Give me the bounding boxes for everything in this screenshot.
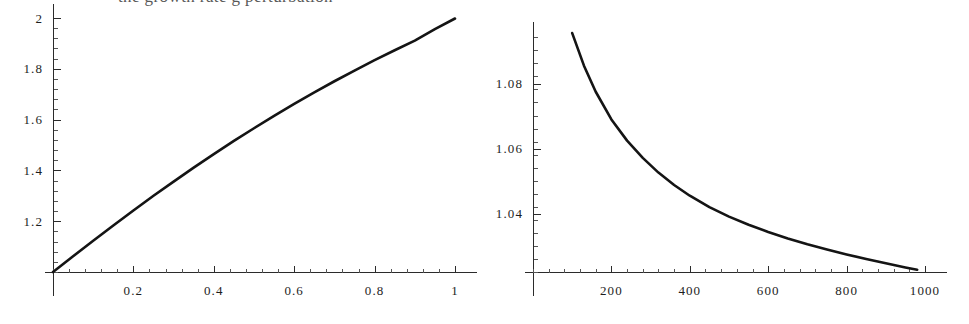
left-plot-canvas: 0.20.40.60.811.21.41.61.82 <box>0 0 480 324</box>
y-tick-label: 1.8 <box>23 61 43 76</box>
right-plot-figure: 20040060080010001.041.061.08 <box>480 0 969 324</box>
y-ticks-group: 1.21.41.61.82 <box>23 11 60 273</box>
figure-page: the growth rate g perturbation 0.20.40.6… <box>0 0 969 324</box>
x-tick-label: 400 <box>678 283 701 298</box>
y-tick-label: 1.06 <box>496 141 523 156</box>
x-tick-label: 0.4 <box>204 283 224 298</box>
y-tick-label: 2 <box>35 11 43 26</box>
x-tick-label: 0.8 <box>365 283 385 298</box>
right-plot-canvas: 20040060080010001.041.061.08 <box>480 0 969 324</box>
y-tick-label: 1.6 <box>23 112 43 127</box>
left-plot-figure: 0.20.40.60.811.21.41.61.82 <box>0 0 480 324</box>
y-tick-label: 1.08 <box>496 76 523 91</box>
x-tick-label: 200 <box>600 283 623 298</box>
y-tick-label: 1.2 <box>23 214 43 229</box>
x-tick-label: 0.6 <box>284 283 304 298</box>
y-tick-label: 1.04 <box>496 206 523 221</box>
x-tick-label: 1000 <box>910 283 940 298</box>
y-tick-label: 1.4 <box>23 163 43 178</box>
axes-group <box>525 22 947 296</box>
x-tick-label: 0.2 <box>124 283 144 298</box>
x-tick-label: 1 <box>451 283 459 298</box>
x-ticks-group: 0.20.40.60.81 <box>54 266 459 299</box>
series-group <box>572 33 917 270</box>
axes-group <box>45 4 477 296</box>
x-ticks-group: 2004006008001000 <box>534 266 941 299</box>
series-curve <box>53 19 455 272</box>
x-tick-label: 800 <box>835 283 858 298</box>
series-group <box>53 19 455 272</box>
x-tick-label: 600 <box>757 283 780 298</box>
series-curve <box>572 33 917 270</box>
